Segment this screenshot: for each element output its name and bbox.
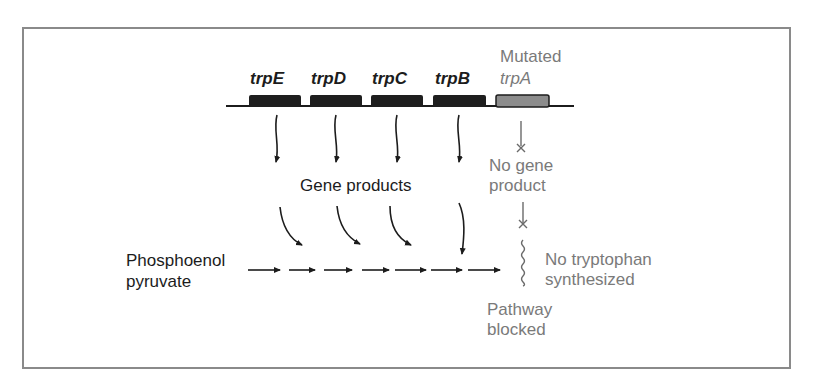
substrate-line1: Phosphoenol [126,251,225,271]
pathway-blocked-line2: blocked [487,320,546,340]
gene-block-trpA-mutated [496,95,549,107]
gene-block-trpB [433,95,486,107]
no-gene-product-line2: product [489,176,546,196]
no-tryptophan-line2: synthesized [545,270,635,290]
mutated-label: Mutated [500,47,561,67]
gene-block-trpC [371,95,423,107]
no-gene-product-line1: No gene [489,156,553,176]
gene-block-trpE [249,95,301,107]
gene-products-label: Gene products [300,176,412,196]
blocked-squiggle-icon [522,240,525,286]
product-arrow-2 [337,206,360,244]
gene-label-trpE: trpE [250,69,284,89]
product-arrow-1 [280,207,302,245]
product-arrow-4 [459,203,464,254]
pathway-blocked-line1: Pathway [487,300,552,320]
no-tryptophan-line1: No tryptophan [545,250,652,270]
gene-label-trpA: trpA [500,69,531,89]
gene-label-trpD: trpD [311,69,346,89]
expression-arrow-trpB [458,115,460,162]
expression-arrow-trpC [396,115,398,162]
gene-label-trpB: trpB [435,69,470,89]
product-arrow-3 [390,206,411,245]
substrate-line2: pyruvate [126,272,191,292]
expression-arrow-trpE [276,115,278,162]
gene-block-trpD [310,95,362,107]
gene-label-trpC: trpC [372,69,407,89]
expression-arrow-trpD [335,115,337,162]
